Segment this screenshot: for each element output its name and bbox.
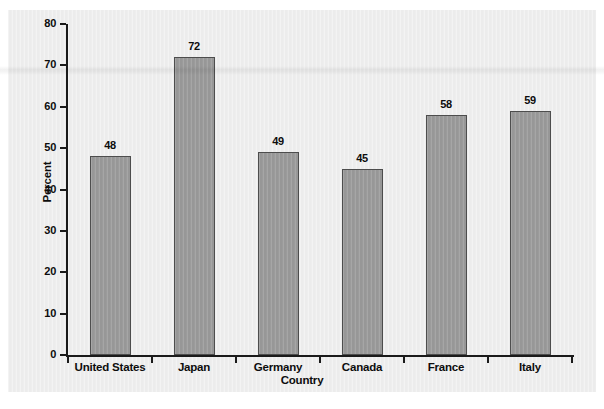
y-axis-tick-label: 80 (34, 17, 56, 29)
y-axis-tick-label: 20 (34, 265, 56, 277)
y-axis-tick-label: 10 (34, 307, 56, 319)
bar-chart-figure: 487249455859 01020304050607080 United St… (0, 0, 604, 409)
bar (426, 115, 467, 355)
bar (90, 156, 131, 355)
plot-area: 487249455859 (68, 24, 572, 355)
y-axis-tick (60, 106, 66, 108)
y-axis-tick-label: 60 (34, 100, 56, 112)
y-axis-title: Percent (41, 147, 53, 217)
bar-value-label: 72 (169, 40, 219, 52)
y-axis-tick (60, 64, 66, 66)
y-axis-tick (60, 313, 66, 315)
y-axis-tick-label: 0 (34, 348, 56, 360)
x-axis-category-label: Italy (470, 361, 590, 373)
y-axis-tick (60, 189, 66, 191)
bar (258, 152, 299, 355)
y-axis-tick (60, 354, 66, 356)
bar (510, 111, 551, 355)
bar-value-label: 59 (505, 94, 555, 106)
bar (174, 57, 215, 355)
bar-value-label: 58 (421, 98, 471, 110)
y-axis-tick-label: 70 (34, 58, 56, 70)
x-axis-title: Country (0, 374, 604, 386)
bar-value-label: 49 (253, 135, 303, 147)
y-axis-tick (60, 147, 66, 149)
bar-value-label: 48 (85, 139, 135, 151)
y-axis-tick (60, 271, 66, 273)
bar-value-label: 45 (337, 152, 387, 164)
bar (342, 169, 383, 355)
y-axis-tick (60, 23, 66, 25)
y-axis-tick-label: 30 (34, 224, 56, 236)
y-axis-tick (60, 230, 66, 232)
y-axis-line (66, 24, 68, 357)
